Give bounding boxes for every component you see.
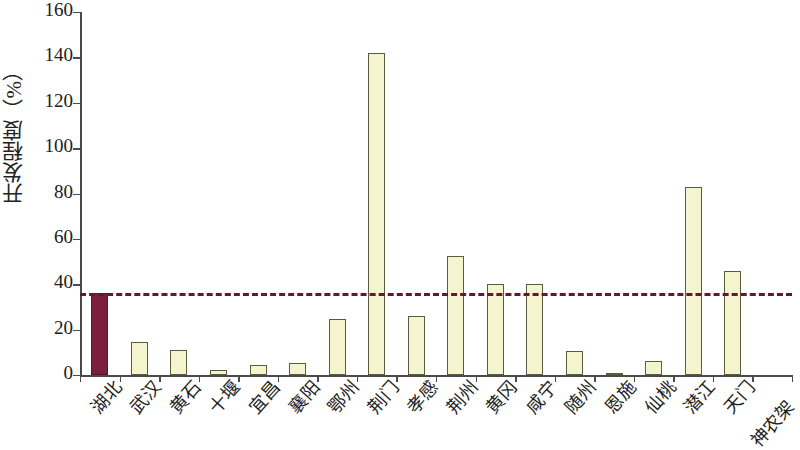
y-axis-title: 开发程度（%）	[4, 60, 34, 330]
x-axis-label: 孝感	[404, 378, 442, 417]
x-axis-label: 随州	[562, 378, 600, 417]
x-axis-label: 黄石	[167, 378, 205, 417]
y-axis-title-label: 开发程度（%）	[4, 60, 25, 204]
bar	[210, 370, 227, 375]
bar	[685, 187, 702, 375]
bar	[368, 53, 385, 375]
bar	[250, 365, 267, 375]
x-axis-label: 潜江	[681, 378, 719, 417]
x-axis-label: 黄冈	[483, 378, 521, 417]
y-tick-mark	[73, 57, 80, 58]
y-tick-label: 120	[45, 91, 74, 111]
y-tick-mark	[73, 103, 80, 104]
bar	[170, 350, 187, 375]
y-axis-line	[80, 12, 82, 375]
x-axis-label: 神农架	[748, 398, 798, 450]
x-axis-label: 襄阳	[285, 378, 323, 417]
x-axis-label: 仙桃	[641, 378, 679, 417]
bar	[606, 373, 623, 375]
y-tick-mark	[73, 284, 80, 285]
y-tick-label: 60	[54, 227, 73, 247]
bar	[566, 351, 583, 375]
y-tick-mark	[73, 148, 80, 149]
bar	[724, 271, 741, 375]
y-tick-label: 140	[45, 45, 74, 65]
y-tick-label: 40	[54, 272, 73, 292]
reference-line	[80, 293, 792, 296]
y-tick-mark	[73, 194, 80, 195]
bar	[487, 284, 504, 375]
x-axis-label: 十堰	[206, 378, 244, 417]
bar	[645, 361, 662, 375]
bar-chart: 开发程度（%） 160140120100806040200 湖北武汉黄石十堰宜昌…	[0, 0, 800, 450]
x-axis-label: 恩施	[602, 378, 640, 417]
x-axis-labels: 湖北武汉黄石十堰宜昌襄阳鄂州荆门孝感荆州黄冈咸宁随州恩施仙桃潜江天门神农架	[80, 378, 792, 450]
y-tick-label: 100	[45, 136, 74, 156]
y-tick-label: 20	[54, 318, 73, 338]
x-axis-label: 天门	[721, 378, 759, 417]
bar	[447, 256, 464, 375]
x-axis-label: 荆州	[444, 378, 482, 417]
y-tick-mark	[73, 12, 80, 13]
y-tick-label: 0	[64, 363, 74, 383]
y-tick-mark	[73, 239, 80, 240]
bar	[526, 284, 543, 375]
bar	[289, 363, 306, 375]
bar	[131, 342, 148, 375]
x-axis-label: 湖北	[88, 378, 126, 417]
y-tick-mark	[73, 375, 80, 376]
plot-area: 160140120100806040200	[80, 12, 792, 375]
x-axis-label: 荆门	[365, 378, 403, 417]
x-axis-label: 鄂州	[325, 378, 363, 417]
x-axis-label: 武汉	[127, 378, 165, 417]
y-tick-mark	[73, 330, 80, 331]
y-tick-label: 80	[54, 182, 73, 202]
x-axis-label: 咸宁	[523, 378, 561, 417]
bar	[329, 319, 346, 375]
bar	[408, 316, 425, 375]
bar	[91, 293, 108, 375]
y-tick-label: 160	[45, 0, 74, 20]
x-tick-mark	[792, 375, 793, 382]
x-axis-label: 宜昌	[246, 378, 284, 417]
